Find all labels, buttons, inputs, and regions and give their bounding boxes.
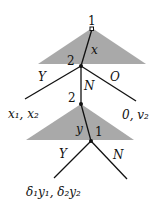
node-2a [79, 64, 83, 68]
node-1b [89, 139, 93, 143]
payoff-accept-first: x₁, x₂ [8, 107, 39, 121]
action-x-label: x [91, 43, 98, 57]
node-2a-label: 2 [67, 54, 75, 68]
action-N1-label: N [83, 79, 95, 93]
action-Y1-label: Y [38, 70, 47, 84]
action-N2-label: N [112, 148, 124, 162]
node-1b-label: 1 [95, 125, 103, 139]
action-O-label: O [110, 70, 120, 84]
action-y-label: y [75, 122, 83, 136]
action-Y2-label: Y [59, 147, 68, 161]
node-2b [79, 102, 83, 106]
payoff-outside: 0, v₂ [122, 108, 149, 122]
node-2b-label: 2 [68, 91, 76, 105]
root-player-label: 1 [88, 14, 96, 28]
payoff-accept-second: δ₁y₁, δ₂y₂ [26, 185, 81, 199]
game-tree-diagram: 1 2 x Y N O 2 x₁, x₂ 0, v₂ y 1 Y N δ₁y₁,… [0, 0, 156, 212]
